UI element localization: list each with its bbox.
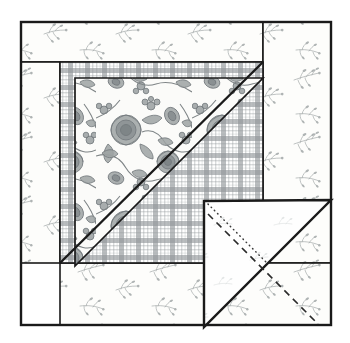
piece-left-border-strip [21,62,60,263]
block-illustration [0,0,350,343]
piece-bottom-border-strip [60,263,331,325]
piece-top-border-strip [21,22,263,62]
quilt-block-diagram [0,0,350,343]
